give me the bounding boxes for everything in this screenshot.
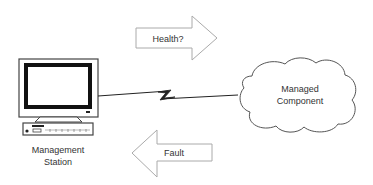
management-station-label-line2: Station [44,157,72,167]
management-station-label-line1: Management [32,145,85,155]
lightning-link-icon [98,90,238,100]
health-label: Health? [152,34,183,44]
health-message-arrow: Health? [136,16,217,60]
managed-component-label-line2: Component [277,96,324,106]
computer-workstation-icon [19,59,98,135]
fault-message-arrow: Fault [132,130,212,177]
diagram-canvas: Management Station Health? Fault Managed… [0,0,373,185]
managed-component-label-line1: Managed [281,84,319,94]
cloud-icon [240,58,356,132]
fault-label: Fault [164,148,185,158]
